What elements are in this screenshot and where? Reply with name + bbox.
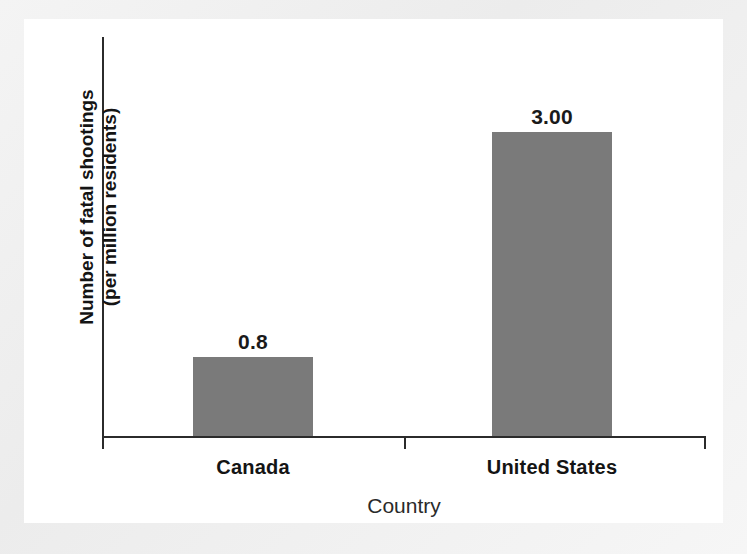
chart-screenshot: 0.8 3.00 Canada United States Country Nu… bbox=[0, 0, 747, 554]
x-axis-tick-end bbox=[704, 438, 706, 449]
y-axis-title-line-2: (per million residents) bbox=[98, 108, 121, 306]
y-axis-title-line-1: Number of fatal shootings bbox=[75, 89, 98, 324]
chart-plot-area: 0.8 3.00 Canada United States Country Nu… bbox=[24, 19, 723, 523]
bar-canada bbox=[193, 357, 313, 436]
bar-value-label-united-states: 3.00 bbox=[492, 105, 612, 129]
y-axis-title: Number of fatal shootings (per million r… bbox=[70, 57, 126, 357]
x-axis-title: Country bbox=[304, 494, 504, 518]
bar-united-states bbox=[492, 132, 612, 436]
x-axis-category-label-canada: Canada bbox=[173, 456, 333, 479]
x-axis-category-label-united-states: United States bbox=[462, 456, 642, 479]
bar-value-label-canada: 0.8 bbox=[193, 330, 313, 354]
x-axis-tick-middle bbox=[404, 438, 406, 449]
x-axis-tick-origin bbox=[102, 438, 104, 449]
